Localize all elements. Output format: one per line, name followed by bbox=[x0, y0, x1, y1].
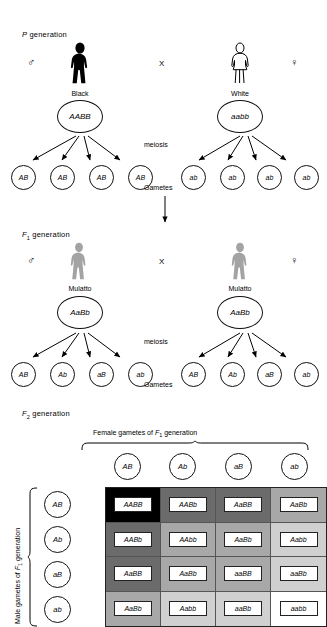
f1-gamete-male-2: Ab bbox=[50, 362, 75, 387]
f1-gamete-male-1: AB bbox=[11, 362, 36, 387]
punnett-genotype: AaBb bbox=[224, 532, 262, 547]
punnett-cell: Aabb bbox=[271, 523, 326, 558]
p-meiosis-arrows-right bbox=[180, 133, 320, 167]
p-parent-genotype-left: AABB bbox=[57, 100, 103, 133]
punnett-genotype: aabb bbox=[280, 601, 318, 616]
f1-meiosis-arrows-left bbox=[8, 330, 148, 364]
p-generation-label: P generation bbox=[22, 30, 67, 39]
f2-column-gamete-4: ab bbox=[281, 453, 308, 480]
punnett-cell: AABB bbox=[106, 488, 161, 523]
punnett-genotype: Aabb bbox=[280, 532, 318, 547]
punnett-cell: AaBB bbox=[216, 488, 271, 523]
f2-row-gamete-3: aB bbox=[44, 561, 71, 588]
punnett-genotype: aaBb bbox=[224, 601, 262, 616]
female-symbol-p: ♀ bbox=[290, 57, 298, 68]
row-brace bbox=[28, 487, 38, 627]
punnett-cell: AaBb bbox=[271, 488, 326, 523]
punnett-genotype: AaBb bbox=[169, 566, 207, 581]
f1-parent-phenotype-right: Mulatto bbox=[210, 285, 270, 292]
f2-row-header: Male gametes of F1 generation bbox=[14, 528, 23, 624]
punnett-cell: AAbb bbox=[161, 523, 216, 558]
f2-column-header: Female gametes of F1 generation bbox=[93, 429, 197, 438]
p-parent-genotype-right: aabb bbox=[217, 100, 263, 133]
f2-row-gamete-4: ab bbox=[44, 596, 71, 623]
white-female-silhouette-icon bbox=[228, 42, 252, 84]
p-gamete-female-2: ab bbox=[220, 165, 245, 190]
punnett-genotype: AABb bbox=[169, 497, 207, 512]
black-male-silhouette-icon bbox=[67, 42, 93, 84]
p-gamete-female-4: ab bbox=[294, 165, 319, 190]
p-gametes-label: Gametes bbox=[144, 184, 172, 191]
f1-gamete-female-1: AB bbox=[181, 362, 206, 387]
punnett-genotype: Aabb bbox=[169, 601, 207, 616]
f1-generation-label: F1 generation bbox=[22, 230, 70, 241]
punnett-genotype: AaBB bbox=[224, 497, 262, 512]
p-meiosis-arrows-left bbox=[8, 133, 148, 167]
male-symbol-p: ♂ bbox=[27, 57, 35, 68]
punnett-genotype: AaBb bbox=[280, 497, 318, 512]
punnett-genotype: AaBb bbox=[114, 601, 152, 616]
punnett-cell: aaBb bbox=[216, 592, 271, 627]
f2-row-gamete-1: AB bbox=[44, 491, 71, 518]
genetics-diagram: P generation ♂ ♀ X Black AABB White aabb bbox=[0, 0, 327, 627]
f2-column-gamete-1: AB bbox=[114, 453, 141, 480]
f1-gamete-female-4: ab bbox=[294, 362, 319, 387]
punnett-genotype: AABB bbox=[114, 497, 152, 512]
cross-symbol-p: X bbox=[159, 59, 164, 68]
f1-gamete-female-2: Ab bbox=[220, 362, 245, 387]
p-gamete-female-1: ab bbox=[181, 165, 206, 190]
punnett-genotype: AaBB bbox=[114, 566, 152, 581]
p-to-f1-arrow bbox=[155, 196, 175, 228]
punnett-genotype: aaBB bbox=[224, 566, 262, 581]
punnett-cell: AaBb bbox=[161, 557, 216, 592]
punnett-cell: aaBb bbox=[271, 557, 326, 592]
p-gamete-male-3: AB bbox=[89, 165, 114, 190]
punnett-genotype: AAbb bbox=[169, 532, 207, 547]
gray-female-silhouette-icon bbox=[228, 242, 252, 280]
p-parent-phenotype-right: White bbox=[210, 90, 270, 97]
f2-column-gamete-2: Ab bbox=[169, 453, 196, 480]
column-brace bbox=[80, 441, 310, 451]
p-gamete-male-1: AB bbox=[11, 165, 36, 190]
f1-meiosis-label: meiosis bbox=[144, 338, 168, 345]
punnett-cell: AaBb bbox=[216, 523, 271, 558]
p-gamete-female-3: ab bbox=[257, 165, 282, 190]
female-symbol-f1: ♀ bbox=[290, 255, 298, 266]
f2-column-gamete-3: aB bbox=[225, 453, 252, 480]
punnett-cell: Aabb bbox=[161, 592, 216, 627]
f2-row-gamete-2: Ab bbox=[44, 526, 71, 553]
gray-male-silhouette-icon bbox=[67, 242, 91, 280]
punnett-cell: AABb bbox=[106, 523, 161, 558]
f1-gamete-female-3: aB bbox=[257, 362, 282, 387]
punnett-square: AABBAABbAaBBAaBbAABbAAbbAaBbAabbAaBBAaBb… bbox=[105, 487, 327, 627]
punnett-genotype: AABb bbox=[114, 532, 152, 547]
p-meiosis-label: meiosis bbox=[144, 141, 168, 148]
punnett-cell: AaBB bbox=[106, 557, 161, 592]
punnett-cell: AaBb bbox=[106, 592, 161, 627]
punnett-cell: aaBB bbox=[216, 557, 271, 592]
punnett-cell: AABb bbox=[161, 488, 216, 523]
p-gamete-male-2: AB bbox=[50, 165, 75, 190]
f1-gametes-label: Gametes bbox=[144, 381, 172, 388]
f2-generation-label: F2 generation bbox=[22, 409, 70, 420]
f1-parent-genotype-right: AaBb bbox=[217, 296, 263, 329]
p-parent-phenotype-left: Black bbox=[50, 90, 110, 97]
f1-meiosis-arrows-right bbox=[180, 330, 320, 364]
f1-parent-phenotype-left: Mulatto bbox=[50, 285, 110, 292]
f1-gamete-male-3: aB bbox=[89, 362, 114, 387]
f1-parent-genotype-left: AaBb bbox=[57, 296, 103, 329]
male-symbol-f1: ♂ bbox=[27, 255, 35, 266]
punnett-genotype: aaBb bbox=[280, 566, 318, 581]
punnett-cell: aabb bbox=[271, 592, 326, 627]
cross-symbol-f1: X bbox=[159, 257, 164, 266]
